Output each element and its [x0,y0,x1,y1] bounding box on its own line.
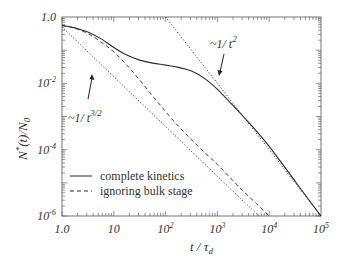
legend-solid-label: complete kinetics [100,169,185,183]
y-tick-label: 10-4 [37,142,56,157]
x-tick-label: 104 [261,221,277,236]
annotation-arrow-three-halves [88,74,95,99]
y-tick-label: 10-6 [37,208,56,223]
x-axis-label: t / τd [190,239,213,256]
x-tick-label: 1.0 [55,222,70,236]
annotation-three-halves: ~1/ t3/2 [68,108,102,125]
x-tick-label: 10 [108,222,120,236]
x-tick-label: 102 [158,221,174,236]
x-tick-label: 103 [209,221,225,236]
y-axis-label: N*(t)/N0 [14,117,32,161]
y-tick-label: 10-2 [37,75,56,90]
y-tick-label: 1.0 [41,10,56,24]
annotation-arrow-square [218,54,225,76]
legend: complete kinetics ignoring bulk stage [70,169,193,198]
chart: 1.0101021031041051.010-210-410-6 ~1/ t3/… [0,0,344,271]
legend-dashed-label: ignoring bulk stage [100,184,193,198]
annotation-square: ~1/ t2 [210,34,237,51]
x-tick-label: 105 [313,221,329,236]
